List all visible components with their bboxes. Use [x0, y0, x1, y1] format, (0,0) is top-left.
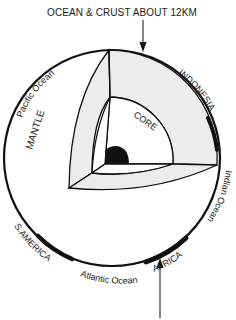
earth-cutaway-diagram: MANTLE CORE Pacific Ocean INDONESIA Indi… — [0, 0, 236, 320]
atlantic-ocean-label: Atlantic Ocean — [79, 268, 138, 285]
top-arrow — [140, 20, 147, 52]
